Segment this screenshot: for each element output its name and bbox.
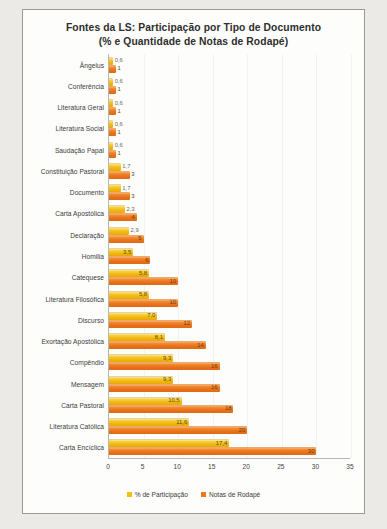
bar-notas: 4 xyxy=(109,213,137,221)
category-label: Catequese xyxy=(72,274,104,281)
plot-area: 0,610,610,610,610,611,731,732,342,953,56… xyxy=(108,54,350,458)
category-label: Documento xyxy=(70,189,104,196)
category-label: Ângelus xyxy=(80,61,104,68)
bar-value-label: 12 xyxy=(183,321,190,327)
bar-value-label: 4 xyxy=(131,215,134,221)
bar-notas: 1 xyxy=(109,150,116,158)
bar-participacao: 8,1 xyxy=(109,333,165,341)
bar-participacao: 0,6 xyxy=(109,142,113,150)
bar-group: 9,316 xyxy=(109,376,350,392)
category-label: Carta Pastoral xyxy=(61,401,104,408)
bar-value-label: 16 xyxy=(211,364,218,370)
category-label: Homilia xyxy=(82,253,104,260)
bar-value-label: 1 xyxy=(117,151,120,157)
gridline xyxy=(351,54,352,458)
bar-participacao: 1,7 xyxy=(109,184,121,192)
bar-group: 0,61 xyxy=(109,78,350,94)
bar-group: 5,810 xyxy=(109,291,350,307)
bar-notas: 10 xyxy=(109,277,178,285)
plot-wrapper: ÂngelusConferênciaLiteratura GeralLitera… xyxy=(23,54,364,474)
bar-value-label: 0,6 xyxy=(115,143,123,149)
bar-value-label: 0,6 xyxy=(115,79,123,85)
category-label: Literatura Filosófica xyxy=(45,295,104,302)
bar-notas: 1 xyxy=(109,107,116,115)
x-axis-tick: 5 xyxy=(141,463,145,470)
bar-value-label: 1 xyxy=(117,66,120,72)
value-axis: 05101520253035 xyxy=(108,458,350,477)
legend-swatch-icon xyxy=(201,492,206,497)
bar-group: 1,73 xyxy=(109,184,350,200)
bar-value-label: 2,9 xyxy=(131,228,139,234)
bar-notas: 12 xyxy=(109,320,192,328)
bar-value-label: 1,7 xyxy=(122,186,130,192)
bar-participacao: 17,4 xyxy=(109,439,229,447)
bar-notas: 1 xyxy=(109,86,116,94)
chart-legend: % de ParticipaçãoNotas de Rodapé xyxy=(23,491,364,498)
legend-swatch-icon xyxy=(127,492,132,497)
bar-value-label: 8,1 xyxy=(155,335,163,341)
bar-value-label: 1 xyxy=(117,87,120,93)
bar-participacao: 9,3 xyxy=(109,354,173,362)
chart-title: Fontes da LS: Participação por Tipo de D… xyxy=(23,10,364,48)
scanned-page-frame: Fontes da LS: Participação por Tipo de D… xyxy=(22,9,365,514)
bar-value-label: 0,6 xyxy=(115,58,123,64)
bar-notas: 6 xyxy=(109,256,150,264)
bar-value-label: 17,4 xyxy=(216,441,227,447)
bar-participacao: 7,0 xyxy=(109,312,157,320)
bar-notas: 3 xyxy=(109,171,130,179)
bar-notas: 10 xyxy=(109,299,178,307)
bar-group: 0,61 xyxy=(109,99,350,115)
bar-value-label: 10 xyxy=(170,300,177,306)
bar-value-label: 3 xyxy=(131,172,134,178)
bar-group: 10,518 xyxy=(109,397,350,413)
bar-notas: 5 xyxy=(109,235,144,243)
bar-value-label: 1 xyxy=(117,130,120,136)
chart-title-line-1: Fontes da LS: Participação por Tipo de D… xyxy=(23,21,364,35)
bar-notas: 1 xyxy=(109,128,116,136)
x-axis-tick: 25 xyxy=(277,463,284,470)
bar-participacao: 9,3 xyxy=(109,376,173,384)
bar-value-label: 0,6 xyxy=(115,122,123,128)
category-label: Compêndio xyxy=(70,359,104,366)
chart-figure: Fontes da LS: Participação por Tipo de D… xyxy=(23,10,364,513)
bar-group: 2,34 xyxy=(109,205,350,221)
bar-value-label: 5,8 xyxy=(139,271,147,277)
x-axis-tick: 15 xyxy=(208,463,215,470)
category-label: Constituição Pastoral xyxy=(41,167,104,174)
category-label: Literatura Geral xyxy=(57,104,104,111)
x-axis-tick: 35 xyxy=(346,463,353,470)
bar-participacao: 0,6 xyxy=(109,78,113,86)
bar-notas: 14 xyxy=(109,341,206,349)
category-label: Discurso xyxy=(78,316,104,323)
bar-notas: 1 xyxy=(109,65,116,73)
category-label: Exortação Apostólica xyxy=(41,338,104,345)
bar-value-label: 20 xyxy=(239,428,246,434)
category-label: Mensagem xyxy=(71,380,104,387)
bar-participacao: 0,6 xyxy=(109,120,113,128)
bar-value-label: 5,8 xyxy=(139,292,147,298)
category-label: Literatura Social xyxy=(56,125,105,132)
bar-notas: 20 xyxy=(109,426,247,434)
bar-notas: 3 xyxy=(109,192,130,200)
bar-participacao: 5,8 xyxy=(109,291,149,299)
bar-value-label: 16 xyxy=(211,385,218,391)
bar-value-label: 10,5 xyxy=(168,398,179,404)
bar-participacao: 2,3 xyxy=(109,205,125,213)
category-axis: ÂngelusConferênciaLiteratura GeralLitera… xyxy=(23,54,108,458)
bar-value-label: 3,5 xyxy=(123,250,131,256)
bar-value-label: 1,7 xyxy=(122,164,130,170)
category-label: Conferência xyxy=(68,82,104,89)
legend-label: Notas de Rodapé xyxy=(209,491,260,498)
legend-item: Notas de Rodapé xyxy=(201,491,260,498)
x-axis-tick: 30 xyxy=(312,463,319,470)
bar-notas: 16 xyxy=(109,362,220,370)
bar-group: 1,73 xyxy=(109,163,350,179)
bar-group: 0,61 xyxy=(109,142,350,158)
bar-group: 8,114 xyxy=(109,333,350,349)
bar-value-label: 3 xyxy=(131,194,134,200)
x-axis-tick: 20 xyxy=(243,463,250,470)
bar-value-label: 0,6 xyxy=(115,101,123,107)
bar-value-label: 7,0 xyxy=(147,313,155,319)
category-label: Carta Encíclica xyxy=(59,444,104,451)
category-label: Carta Apostólica xyxy=(55,210,104,217)
